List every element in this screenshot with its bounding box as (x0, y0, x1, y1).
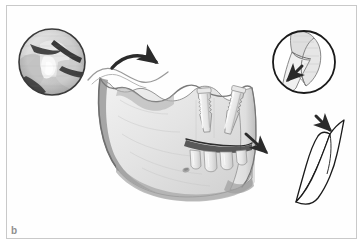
figure-panel: b (0, 0, 363, 245)
figure-label: b (11, 226, 17, 236)
panel-frame (6, 5, 357, 239)
